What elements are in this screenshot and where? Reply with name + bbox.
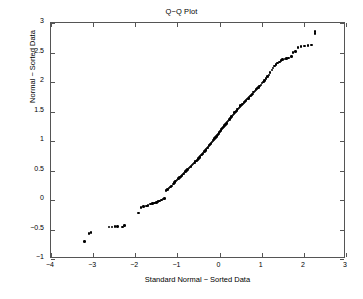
y-tick-mark-right [340,112,344,113]
data-point [111,226,114,229]
x-axis-label: Standard Normal − Sorted Data [50,275,345,284]
y-tick-mark [51,230,55,231]
data-point [90,231,93,234]
data-point [297,46,300,49]
data-point [290,55,293,58]
x-tick-mark [346,253,347,257]
y-tick-mark [51,53,55,54]
data-point [137,212,140,215]
x-tick-label: 0 [207,261,231,268]
x-tick-label: 2 [291,261,315,268]
x-tick-mark-top [135,23,136,27]
y-tick-mark-right [340,82,344,83]
y-tick-mark-right [340,141,344,142]
x-tick-label: −3 [80,261,104,268]
x-tick-mark [220,253,221,257]
y-tick-label: 1 [0,135,44,142]
y-tick-label: 3 [0,17,44,24]
x-tick-mark [304,253,305,257]
y-tick-label: 1.5 [0,106,44,113]
qq-plot-figure: Q−Q Plot −4−3−2−10123 −1−0.500.511.522.5… [0,0,363,299]
x-tick-mark-top [177,23,178,27]
page-title: Q−Q Plot [0,7,363,16]
y-tick-mark [51,171,55,172]
scatter-data-layer [51,23,344,257]
x-tick-mark-top [304,23,305,27]
y-tick-mark [51,23,55,24]
data-point [123,224,126,227]
y-tick-mark-right [340,230,344,231]
x-tick-mark-top [262,23,263,27]
y-tick-mark [51,82,55,83]
x-tick-label: 3 [333,261,357,268]
y-tick-mark [51,141,55,142]
y-tick-mark [51,259,55,260]
x-tick-label: −2 [122,261,146,268]
x-tick-mark [262,253,263,257]
plot-area [50,22,345,258]
data-point [260,84,263,87]
y-tick-label: 2.5 [0,47,44,54]
y-axis-label: Normal − Sorted Data [28,0,37,147]
y-tick-mark-right [340,200,344,201]
x-tick-mark [135,253,136,257]
y-tick-mark-right [340,23,344,24]
y-tick-mark-right [340,171,344,172]
data-point [314,32,317,35]
data-point [294,50,297,53]
data-point [307,44,310,47]
y-tick-label: 0 [0,194,44,201]
x-tick-mark [93,253,94,257]
data-point [116,225,119,228]
y-tick-mark [51,112,55,113]
y-tick-mark-right [340,259,344,260]
data-point [269,71,272,74]
data-point [83,240,86,243]
data-point [163,197,166,200]
y-tick-mark-right [340,53,344,54]
y-tick-label: −1 [0,253,44,260]
data-point [268,74,271,77]
y-tick-label: 2 [0,76,44,83]
data-point [303,45,306,48]
data-point [310,44,313,47]
y-tick-label: −0.5 [0,224,44,231]
data-point [300,45,303,48]
x-tick-label: 1 [249,261,273,268]
x-tick-label: −1 [164,261,188,268]
x-tick-mark-top [346,23,347,27]
x-tick-mark [177,253,178,257]
y-tick-label: 0.5 [0,165,44,172]
x-tick-mark [51,253,52,257]
data-point [314,30,317,33]
x-tick-mark-top [93,23,94,27]
x-tick-label: −4 [38,261,62,268]
y-tick-mark [51,200,55,201]
x-tick-mark-top [220,23,221,27]
